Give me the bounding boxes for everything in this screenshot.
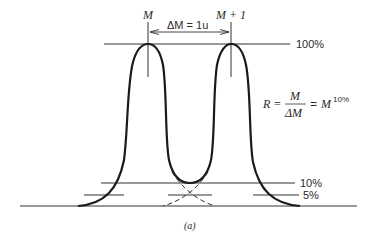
formula-numerator: M: [289, 89, 301, 103]
dashed-tail-right-peak: [163, 172, 208, 206]
formula-lhs: R =: [262, 97, 281, 111]
formula-equals: =: [310, 97, 317, 111]
resolution-diagram: M M + 1 ΔM = 1u 100% 10% 5% R = M ΔM = M…: [0, 0, 373, 245]
resolution-formula: R = M ΔM = M 10%: [262, 89, 349, 120]
peak-left-label: M: [142, 8, 154, 22]
figure-caption: (a): [184, 220, 196, 232]
dashed-tail-left-peak: [172, 172, 215, 206]
peak-right-label: M + 1: [215, 8, 246, 22]
delta-label: ΔM = 1u: [167, 19, 208, 31]
peak-curve: [78, 44, 300, 206]
formula-denominator: ΔM: [284, 106, 303, 120]
formula-rhs-superscript: 10%: [333, 95, 349, 104]
level-10-label: 10%: [300, 177, 322, 189]
level-100-label: 100%: [296, 38, 324, 50]
formula-rhs-base: M: [320, 97, 332, 111]
level-5-label: 5%: [303, 189, 319, 201]
